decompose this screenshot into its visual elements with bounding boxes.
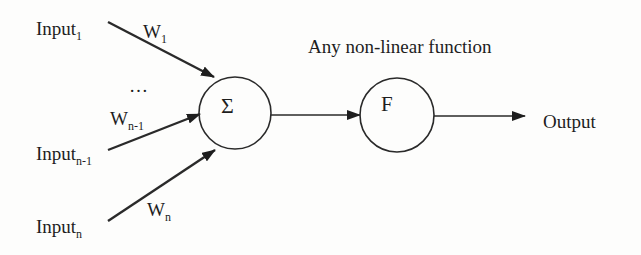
activation-node (360, 78, 434, 152)
sigma-symbol: Σ (221, 93, 234, 118)
output-label: Output (543, 111, 597, 132)
ellipsis: … (129, 75, 148, 96)
weight-n-1-label: Wn-1 (110, 108, 144, 133)
weight-n-label: Wn (147, 199, 171, 224)
activation-symbol: F (381, 92, 393, 116)
summation-node (199, 77, 271, 149)
activation-caption: Any non-linear function (308, 36, 492, 57)
input-n-1-label: Inputn-1 (36, 143, 92, 168)
arrow-input-1-to-sum (108, 22, 214, 77)
diagram-svg: Σ F Any non-linear function Output Input… (0, 0, 641, 255)
input-1-label: Input1 (36, 18, 82, 43)
neuron-diagram: Σ F Any non-linear function Output Input… (0, 0, 641, 255)
input-n-label: Inputn (36, 216, 82, 241)
